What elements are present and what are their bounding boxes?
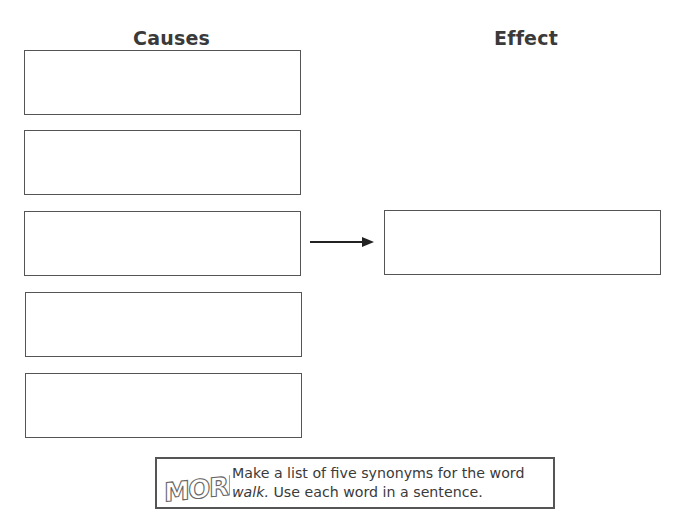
- more-activity-line-2: walk. Use each word in a sentence.: [232, 483, 524, 502]
- arrow-right-icon: [309, 235, 375, 249]
- causes-heading: Causes: [133, 27, 210, 49]
- cause-box-5[interactable]: [25, 373, 302, 438]
- more-activity-line-2-rest: Use each word in a sentence.: [269, 484, 483, 500]
- cause-box-1[interactable]: [24, 50, 301, 115]
- more-activity-line-1: Make a list of five synonyms for the wor…: [232, 464, 524, 483]
- effect-heading: Effect: [494, 27, 558, 49]
- more-logo-icon: MORE!: [162, 463, 230, 505]
- cause-box-2[interactable]: [24, 130, 301, 195]
- effect-box[interactable]: [384, 210, 661, 275]
- more-logo-text: MORE!: [164, 468, 230, 505]
- italic-word: walk.: [232, 484, 269, 500]
- cause-box-3[interactable]: [24, 211, 301, 276]
- more-activity-text: Make a list of five synonyms for the wor…: [232, 464, 524, 502]
- more-activity-box: MORE! Make a list of five synonyms for t…: [155, 457, 555, 509]
- cause-box-4[interactable]: [25, 292, 302, 357]
